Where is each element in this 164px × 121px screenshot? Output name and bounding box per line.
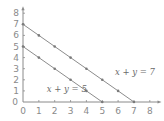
line-labels: x + y = 7x + y = 5 bbox=[47, 67, 156, 94]
y-tick-label: 8 bbox=[13, 8, 19, 18]
x-tick-label: 0 bbox=[20, 106, 26, 116]
line-label: x + y = 7 bbox=[115, 67, 156, 77]
data-point-marker bbox=[22, 23, 25, 26]
x-tick-label: 6 bbox=[115, 106, 121, 116]
y-tick-label: 1 bbox=[13, 86, 19, 96]
y-tick-label: 2 bbox=[13, 75, 19, 85]
x-tick-label: 2 bbox=[52, 106, 58, 116]
y-tick-label: 6 bbox=[13, 30, 19, 40]
y-tick-label: 4 bbox=[13, 53, 19, 63]
x-tick-label: 3 bbox=[68, 106, 74, 116]
y-tick-label: 0 bbox=[12, 97, 18, 107]
line-chart: 012345678012345678 x + y = 7x + y = 5 bbox=[0, 0, 164, 121]
data-point-marker bbox=[133, 101, 136, 104]
y-tick-label: 3 bbox=[13, 64, 19, 74]
x-tick-label: 5 bbox=[99, 106, 105, 116]
data-point-marker bbox=[101, 101, 104, 104]
data-point-marker bbox=[53, 45, 56, 48]
data-point-marker bbox=[69, 79, 72, 82]
x-axis-arrow-icon bbox=[158, 100, 162, 103]
series-line-1 bbox=[22, 45, 104, 103]
data-point-marker bbox=[38, 34, 41, 37]
data-point-marker bbox=[85, 67, 88, 70]
axes: 012345678012345678 bbox=[12, 6, 161, 116]
data-point-marker bbox=[22, 45, 25, 48]
data-point-marker bbox=[69, 56, 72, 59]
x-tick-label: 4 bbox=[84, 106, 90, 116]
data-point-marker bbox=[117, 90, 120, 93]
y-tick-label: 7 bbox=[13, 19, 19, 29]
data-point-marker bbox=[101, 79, 104, 82]
x-tick-label: 1 bbox=[36, 106, 42, 116]
x-tick-label: 8 bbox=[147, 106, 153, 116]
data-point-marker bbox=[38, 56, 41, 59]
data-point-marker bbox=[53, 67, 56, 70]
y-axis-arrow-icon bbox=[21, 6, 24, 10]
y-tick-label: 5 bbox=[13, 42, 19, 52]
line-label: x + y = 5 bbox=[47, 84, 87, 94]
x-tick-label: 7 bbox=[131, 106, 137, 116]
